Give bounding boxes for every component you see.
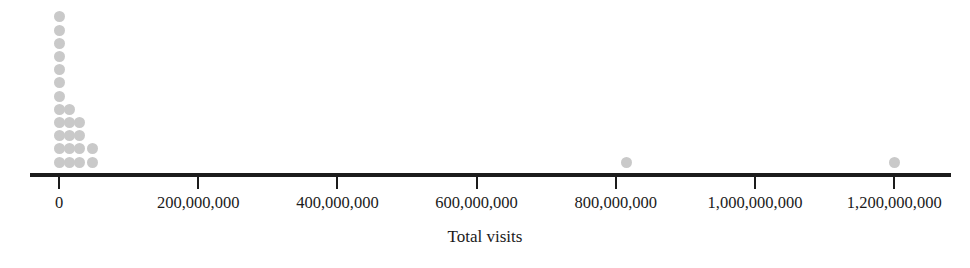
data-point-dot [64,143,75,154]
data-point-dot [54,91,65,102]
x-axis-line [30,173,951,177]
data-point-dot [74,117,85,128]
data-point-dot [54,11,65,22]
x-axis-tick [615,177,617,189]
x-axis-tick [336,177,338,189]
data-point-dot [54,38,65,49]
data-point-dot [64,130,75,141]
data-point-dot [54,157,65,168]
data-point-dot [64,104,75,115]
x-axis-tick-label: 1,200,000,000 [847,192,942,214]
data-point-dot [64,157,75,168]
data-point-dot [54,117,65,128]
outlier-dot [889,157,900,168]
data-point-dot [54,51,65,62]
data-point-dot [87,157,98,168]
data-point-dot [54,143,65,154]
x-axis-tick [58,177,60,189]
data-point-dot [74,157,85,168]
data-point-dot [64,117,75,128]
dot-plot-chart: 0200,000,000400,000,000600,000,000800,00… [0,0,970,268]
x-axis-title: Total visits [0,225,970,249]
x-axis-tick-label: 400,000,000 [296,192,379,214]
x-axis-tick [754,177,756,189]
data-point-dot [87,143,98,154]
data-point-dot [54,64,65,75]
x-axis-tick-label: 1,000,000,000 [708,192,803,214]
data-point-dot [54,104,65,115]
data-point-dot [54,130,65,141]
x-axis-tick [476,177,478,189]
plot-area [0,0,970,176]
x-axis-tick-label: 0 [55,192,63,214]
x-axis-tick [197,177,199,189]
x-axis-tick [893,177,895,189]
outlier-dot [621,157,632,168]
data-point-dot [74,130,85,141]
x-axis-tick-label: 800,000,000 [575,192,658,214]
data-point-dot [54,25,65,36]
x-axis-tick-label: 600,000,000 [435,192,518,214]
data-point-dot [54,77,65,88]
x-axis-tick-label: 200,000,000 [157,192,240,214]
data-point-dot [74,143,85,154]
